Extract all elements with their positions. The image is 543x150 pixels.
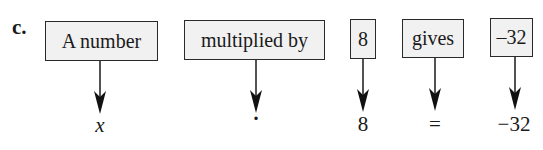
down-arrow-icon xyxy=(356,59,370,113)
phrase-text: A number xyxy=(62,30,141,53)
down-arrow-icon xyxy=(428,58,442,112)
phrase-text: –32 xyxy=(497,26,527,49)
phrase-box-multiplied-by: multiplied by xyxy=(184,20,325,60)
symbol-multiply-dot: · xyxy=(226,106,286,131)
symbol-minus-32: −32 xyxy=(484,112,543,137)
symbol-8: 8 xyxy=(333,112,393,137)
part-label: c. xyxy=(12,15,27,40)
phrase-box-8: 8 xyxy=(350,19,376,59)
symbol-x: x xyxy=(70,113,130,138)
phrase-box-gives: gives xyxy=(402,19,464,58)
phrase-box-a-number: A number xyxy=(45,21,158,61)
down-arrow-icon xyxy=(508,57,522,111)
down-arrow-icon xyxy=(93,61,107,115)
phrase-text: 8 xyxy=(358,28,368,51)
phrase-box-minus-32: –32 xyxy=(490,18,533,57)
phrase-text: gives xyxy=(412,27,454,50)
symbol-equals: = xyxy=(405,112,465,137)
phrase-text: multiplied by xyxy=(201,29,308,52)
